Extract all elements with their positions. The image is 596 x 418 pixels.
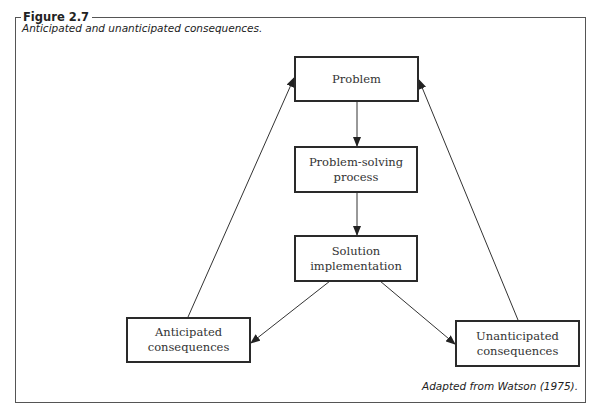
node-solution-label: Solution implementation bbox=[308, 244, 404, 274]
figure-source: Adapted from Watson (1975). bbox=[422, 380, 578, 392]
arrow-solution-to-anticipated bbox=[251, 281, 330, 343]
node-solution-implementation: Solution implementation bbox=[294, 235, 418, 282]
node-unanticipated-label: Unanticipated consequences bbox=[471, 329, 564, 359]
node-problem: Problem bbox=[294, 56, 419, 102]
arrow-solution-to-unanticipated bbox=[380, 281, 455, 344]
node-process-label: Problem-solving process bbox=[306, 155, 406, 185]
node-anticipated-consequences: Anticipated consequences bbox=[126, 317, 251, 363]
node-problem-label: Problem bbox=[332, 72, 381, 87]
node-unanticipated-consequences: Unanticipated consequences bbox=[455, 320, 580, 367]
arrow-anticipated-to-problem bbox=[188, 78, 294, 317]
node-problem-solving-process: Problem-solving process bbox=[294, 146, 418, 193]
arrow-unanticipated-to-problem bbox=[419, 80, 518, 320]
node-anticipated-label: Anticipated consequences bbox=[146, 325, 231, 355]
